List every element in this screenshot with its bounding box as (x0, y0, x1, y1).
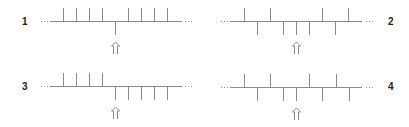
ellipsis-right-dot (191, 21, 192, 22)
ellipsis-right-dot (188, 21, 189, 22)
double-up-arrow-icon (112, 42, 120, 54)
double-up-arrow-icon (293, 108, 301, 120)
double-up-arrow-icon (293, 42, 301, 54)
ellipsis-left-dot (221, 87, 222, 88)
ellipsis-left-dot (224, 21, 225, 22)
panel-label-4: 4 (388, 82, 394, 92)
ellipsis-right-dot (372, 21, 373, 22)
ellipsis-right-dot (369, 87, 370, 88)
ellipsis-left-dot (221, 21, 222, 22)
ellipsis-left-dot (227, 87, 228, 88)
ellipsis-right-dot (366, 87, 367, 88)
ellipsis-left-dot (224, 87, 225, 88)
panel-label-1: 1 (22, 17, 28, 27)
ellipsis-right-dot (372, 87, 373, 88)
panel-label-2: 2 (388, 17, 394, 27)
ellipsis-right-dot (185, 86, 186, 87)
ellipsis-left-dot (47, 86, 48, 87)
ellipsis-right-dot (188, 86, 189, 87)
ellipsis-right-dot (366, 21, 367, 22)
panel-label-3: 3 (22, 82, 28, 92)
ellipsis-right-dot (191, 86, 192, 87)
ellipsis-left-dot (41, 21, 42, 22)
ellipsis-right-dot (369, 21, 370, 22)
ellipsis-right-dot (185, 21, 186, 22)
domain-wall-diagrams (0, 0, 409, 127)
double-up-arrow-icon (112, 107, 120, 119)
ellipsis-left-dot (44, 86, 45, 87)
ellipsis-left-dot (41, 86, 42, 87)
ellipsis-left-dot (44, 21, 45, 22)
ellipsis-left-dot (47, 21, 48, 22)
ellipsis-left-dot (227, 21, 228, 22)
